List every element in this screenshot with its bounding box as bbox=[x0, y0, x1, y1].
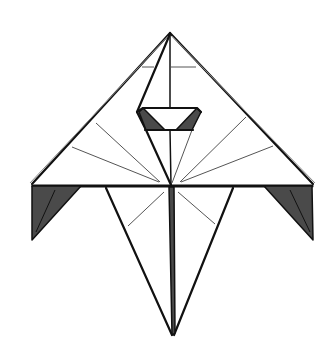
radial-crease-lr bbox=[178, 192, 215, 224]
center-spine bbox=[169, 187, 175, 335]
left-wing-flap bbox=[32, 186, 81, 240]
origami-diagram bbox=[0, 0, 331, 347]
radial-crease-ll bbox=[128, 192, 164, 226]
center-crease-mid bbox=[170, 130, 171, 185]
lower-kite-right-edge bbox=[174, 188, 233, 335]
right-wing-flap bbox=[264, 186, 313, 240]
lower-kite-left-edge bbox=[106, 188, 172, 335]
